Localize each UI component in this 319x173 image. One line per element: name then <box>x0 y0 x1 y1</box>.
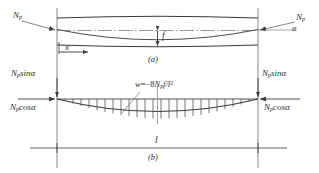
beam-top-edge <box>57 16 258 18</box>
load-formula-label: w=−8Npf/l2 <box>135 80 173 90</box>
figure-container: Np Np α f x (a) Npsinα Npsinα w=−8Npf/l2… <box>0 0 319 173</box>
reaction-label-horizontal-right: Npcosα <box>264 103 290 112</box>
caption-b: (b) <box>148 153 158 162</box>
angle-label-alpha: α <box>292 25 296 33</box>
sag-label: f <box>162 32 165 42</box>
force-label-top-left: Np <box>13 11 22 20</box>
force-label-top-right: Np <box>296 13 305 22</box>
force-arrow-left-a <box>22 21 55 30</box>
axis-label-x: x <box>65 43 69 52</box>
span-label: l <box>155 136 158 146</box>
distributed-load-arrows <box>65 99 249 119</box>
reaction-label-vertical-right: Npsinα <box>262 69 286 78</box>
caption-a: (a) <box>148 55 158 64</box>
force-arrow-right-a <box>260 22 295 30</box>
reaction-label-vertical-left: Npsinα <box>11 69 35 78</box>
reaction-label-horizontal-left: Npcosα <box>10 103 36 112</box>
